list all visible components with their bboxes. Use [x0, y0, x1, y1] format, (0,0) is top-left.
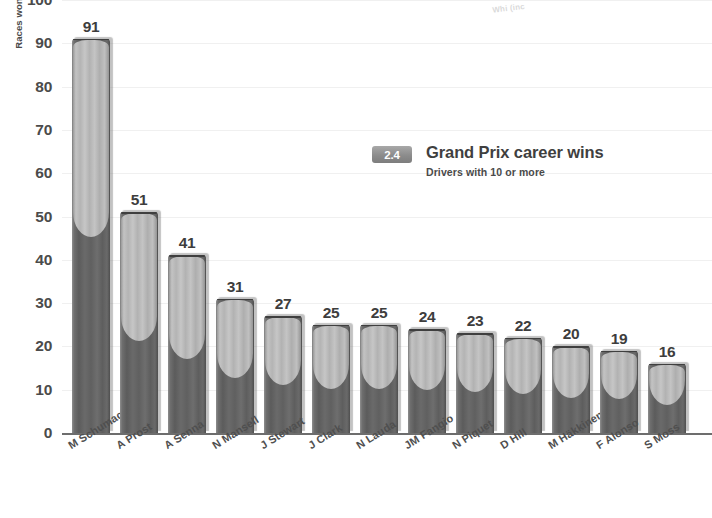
bar-highlight: [265, 317, 301, 385]
y-axis-tick-label: 50: [35, 208, 52, 226]
y-axis-tick-label: 60: [35, 164, 52, 182]
bar[interactable]: [648, 364, 686, 433]
bar-highlight: [217, 300, 253, 378]
bar-group[interactable]: 31: [216, 0, 254, 433]
y-axis-tick-label: 100: [27, 0, 52, 9]
bar-value-label: 25: [371, 304, 388, 322]
bar-value-label: 51: [131, 191, 148, 209]
chart-page: Whi (inc ✦ Races won 0102030405060708090…: [0, 0, 712, 518]
bar-highlight: [121, 213, 157, 341]
bar-group[interactable]: 27: [264, 0, 302, 433]
bar-group[interactable]: 51: [120, 0, 158, 433]
bar-group[interactable]: 16: [648, 0, 686, 433]
y-axis-tick-label: 80: [35, 78, 52, 96]
bar[interactable]: [360, 325, 398, 433]
bar-highlight: [457, 334, 493, 392]
bar-group[interactable]: 22: [504, 0, 542, 433]
bar[interactable]: [72, 39, 110, 433]
bar-value-label: 91: [83, 18, 100, 36]
bar-value-label: 19: [611, 330, 628, 348]
plot-area: 91M Schumacher51A Prost41A Senna31N Mans…: [62, 0, 712, 433]
bar-group[interactable]: 25: [360, 0, 398, 433]
bar[interactable]: [312, 325, 350, 433]
bar[interactable]: [120, 212, 158, 433]
y-axis-tick-label: 10: [35, 381, 52, 399]
bar-value-label: 41: [179, 234, 196, 252]
bar-highlight: [169, 256, 205, 359]
bar-group[interactable]: 24: [408, 0, 446, 433]
bar-group[interactable]: 19: [600, 0, 638, 433]
bar-value-label: 23: [467, 312, 484, 330]
y-axis-ticks: 0102030405060708090100: [0, 0, 62, 440]
title-text-group: Grand Prix career wins Drivers with 10 o…: [426, 144, 604, 178]
bar-highlight: [313, 326, 349, 389]
bar-value-label: 31: [227, 278, 244, 296]
bar-highlight: [649, 365, 685, 405]
chart-header: 2.4 Grand Prix career wins Drivers with …: [372, 144, 604, 178]
bar-value-label: 25: [323, 304, 340, 322]
bar-highlight: [553, 347, 589, 397]
y-axis-tick-label: 0: [44, 424, 52, 442]
bar-highlight: [361, 326, 397, 389]
bar-value-label: 27: [275, 295, 292, 313]
y-axis-tick-label: 40: [35, 251, 52, 269]
bar[interactable]: [168, 255, 206, 433]
section-badge: 2.4: [372, 146, 412, 163]
y-axis-tick-label: 20: [35, 337, 52, 355]
y-axis-tick-label: 70: [35, 121, 52, 139]
bar-highlight: [601, 352, 637, 400]
bar-group[interactable]: 41: [168, 0, 206, 433]
bar[interactable]: [504, 338, 542, 433]
bar-value-label: 16: [659, 343, 676, 361]
bar-highlight: [73, 40, 109, 237]
bar-group[interactable]: 23: [456, 0, 494, 433]
bar-highlight: [409, 330, 445, 390]
chart-title: Grand Prix career wins: [426, 144, 604, 161]
y-axis-tick-label: 90: [35, 34, 52, 52]
bar-value-label: 24: [419, 308, 436, 326]
bar-group[interactable]: 20: [552, 0, 590, 433]
chart-subtitle: Drivers with 10 or more: [426, 166, 604, 178]
bar-group[interactable]: 91: [72, 0, 110, 433]
bar-highlight: [505, 339, 541, 394]
bar-value-label: 20: [563, 325, 580, 343]
bar[interactable]: [216, 299, 254, 433]
y-axis-tick-label: 30: [35, 294, 52, 312]
bar-value-label: 22: [515, 317, 532, 335]
bar-group[interactable]: 25: [312, 0, 350, 433]
